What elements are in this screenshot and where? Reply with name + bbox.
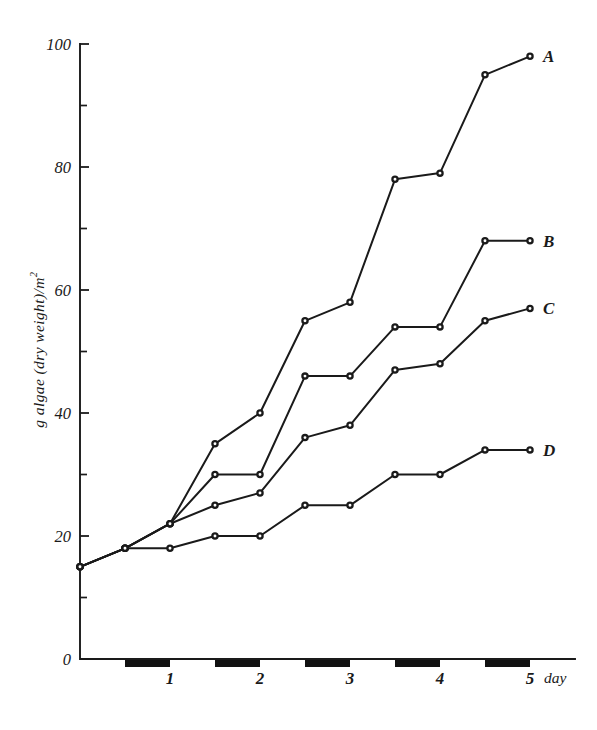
- data-point: [302, 374, 307, 379]
- y-tick-label: 80: [55, 158, 72, 177]
- x-tick-label: 3: [345, 669, 355, 688]
- data-point: [392, 324, 397, 329]
- y-tick-label: 40: [55, 404, 72, 423]
- x-axis-unit-label: day: [544, 669, 567, 686]
- x-tick-label: 4: [435, 669, 445, 688]
- series-end-labels: ABCD: [542, 47, 555, 460]
- data-point: [212, 533, 217, 538]
- x-tick-label: 2: [255, 669, 265, 688]
- x-tick-label: 1: [166, 669, 175, 688]
- y-axis-ticks: 020406080100: [46, 35, 89, 669]
- data-point: [302, 435, 307, 440]
- data-point: [392, 367, 397, 372]
- series-label-d: D: [542, 441, 555, 460]
- data-point: [392, 177, 397, 182]
- data-point: [527, 306, 532, 311]
- x-axis-ticks: 12345: [166, 669, 535, 688]
- data-point: [437, 361, 442, 366]
- data-point: [437, 472, 442, 477]
- y-tick-label: 60: [55, 281, 72, 300]
- algae-growth-line-chart: 020406080100 12345 ABCD day: [0, 0, 597, 730]
- data-point: [437, 324, 442, 329]
- data-point: [347, 374, 352, 379]
- data-point: [257, 472, 262, 477]
- data-point: [482, 318, 487, 323]
- data-point: [482, 238, 487, 243]
- data-point: [257, 490, 262, 495]
- series-line-a: [80, 56, 530, 567]
- series-label-a: A: [542, 47, 554, 66]
- data-point: [482, 447, 487, 452]
- data-point: [437, 171, 442, 176]
- night-bar: [125, 660, 170, 667]
- series-line-b: [80, 241, 530, 567]
- data-point: [167, 546, 172, 551]
- series-label-b: B: [542, 232, 554, 251]
- data-point: [257, 410, 262, 415]
- data-point: [302, 503, 307, 508]
- y-tick-label: 100: [46, 35, 72, 54]
- night-bar: [395, 660, 440, 667]
- data-point: [122, 546, 127, 551]
- data-point: [347, 300, 352, 305]
- night-period-bars: [125, 660, 530, 667]
- data-point: [212, 503, 217, 508]
- night-bar: [305, 660, 350, 667]
- y-tick-label: 20: [55, 527, 72, 546]
- series-label-c: C: [543, 299, 555, 318]
- data-point: [212, 441, 217, 446]
- axis-lines: [80, 44, 575, 659]
- data-point: [482, 72, 487, 77]
- data-point: [392, 472, 397, 477]
- data-point: [527, 447, 532, 452]
- data-point: [527, 54, 532, 59]
- x-tick-label: 5: [526, 669, 535, 688]
- chart-axes: [80, 44, 575, 659]
- data-series-group: [77, 54, 532, 570]
- data-point: [347, 423, 352, 428]
- data-point: [527, 238, 532, 243]
- y-tick-label: 0: [63, 650, 72, 669]
- data-point: [347, 503, 352, 508]
- data-point: [257, 533, 262, 538]
- x-unit-text: day: [544, 669, 567, 686]
- data-point: [167, 521, 172, 526]
- night-bar: [215, 660, 260, 667]
- data-point: [302, 318, 307, 323]
- data-point: [77, 564, 82, 569]
- chart-container: 020406080100 12345 ABCD day g algae (dry…: [0, 0, 597, 730]
- data-point: [212, 472, 217, 477]
- night-bar: [485, 660, 530, 667]
